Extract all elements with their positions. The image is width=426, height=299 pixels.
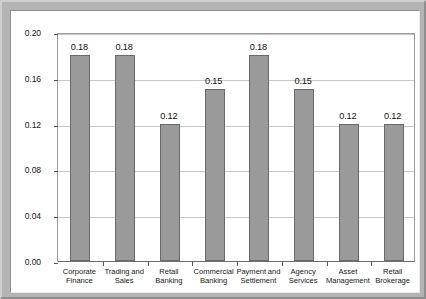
y-axis-tick-label: 0.08 [1, 165, 41, 175]
y-tick-mark [54, 126, 58, 127]
figure-inner-panel: 0.000.040.080.120.160.200.18CorporateFin… [10, 10, 420, 293]
x-axis-category-label: AgencyServices [279, 267, 328, 286]
x-axis-category-label-line: Sales [100, 276, 149, 285]
x-axis-category-label: RetailBanking [145, 267, 194, 286]
x-axis-category-label: CommercialBanking [189, 267, 238, 286]
bar-value-label: 0.12 [323, 111, 373, 121]
bar-value-label: 0.18 [233, 42, 283, 52]
x-tick-mark [192, 261, 193, 266]
y-axis-tick-label: 0.12 [1, 120, 41, 130]
x-tick-mark [103, 261, 104, 266]
x-axis-category-label-line: Commercial [189, 267, 238, 276]
bar-value-label: 0.12 [144, 111, 194, 121]
x-axis-category-label-line: Management [324, 276, 373, 285]
y-tick-mark [54, 217, 58, 218]
bar [249, 55, 269, 261]
x-axis-category-label-line: Payment and [234, 267, 283, 276]
x-axis-category-label: Payment andSettlement [234, 267, 283, 286]
bar [160, 124, 180, 261]
y-tick-mark [54, 263, 58, 264]
x-axis-category-label-line: Banking [189, 276, 238, 285]
x-axis-category-label-line: Banking [145, 276, 194, 285]
x-tick-mark [282, 261, 283, 266]
y-tick-mark [54, 34, 58, 35]
x-axis-category-label: RetailBrokerage [368, 267, 417, 286]
y-tick-mark [54, 80, 58, 81]
y-tick-mark [54, 171, 58, 172]
x-axis-category-label: AssetManagement [324, 267, 373, 286]
x-tick-mark [148, 261, 149, 266]
bar-value-label: 0.15 [278, 76, 328, 86]
x-axis-category-label-line: Corporate [55, 267, 104, 276]
bar [384, 124, 404, 261]
gridline-y [58, 171, 414, 172]
plot-area [57, 33, 415, 262]
bar-value-label: 0.18 [99, 42, 149, 52]
x-axis-category-label-line: Services [279, 276, 328, 285]
x-axis-category-label-line: Retail [368, 267, 417, 276]
x-axis-category-label-line: Finance [55, 276, 104, 285]
x-axis-baseline [58, 261, 414, 262]
x-axis-category-label-line: Asset [324, 267, 373, 276]
y-axis-tick-label: 0.16 [1, 74, 41, 84]
x-axis-category-label-line: Agency [279, 267, 328, 276]
x-axis-category-label-line: Retail [145, 267, 194, 276]
bar-value-label: 0.12 [368, 111, 418, 121]
x-axis-category-label-line: Brokerage [368, 276, 417, 285]
y-axis-tick-label: 0.00 [1, 257, 41, 267]
x-tick-mark [371, 261, 372, 266]
x-axis-category-label: CorporateFinance [55, 267, 104, 286]
gridline-y [58, 34, 414, 35]
y-axis-tick-label: 0.20 [1, 28, 41, 38]
figure-outer-frame: 0.000.040.080.120.160.200.18CorporateFin… [0, 0, 426, 299]
x-axis-category-label-line: Settlement [234, 276, 283, 285]
bar-value-label: 0.18 [54, 42, 104, 52]
gridline-y [58, 217, 414, 218]
bar [115, 55, 135, 261]
x-tick-mark [327, 261, 328, 266]
bar [205, 89, 225, 261]
x-axis-category-label: Trading andSales [100, 267, 149, 286]
bar-value-label: 0.15 [189, 76, 239, 86]
gridline-y [58, 126, 414, 127]
bar [339, 124, 359, 261]
y-axis-tick-label: 0.04 [1, 211, 41, 221]
bar [70, 55, 90, 261]
x-axis-category-label-line: Trading and [100, 267, 149, 276]
bar [294, 89, 314, 261]
x-tick-mark [237, 261, 238, 266]
